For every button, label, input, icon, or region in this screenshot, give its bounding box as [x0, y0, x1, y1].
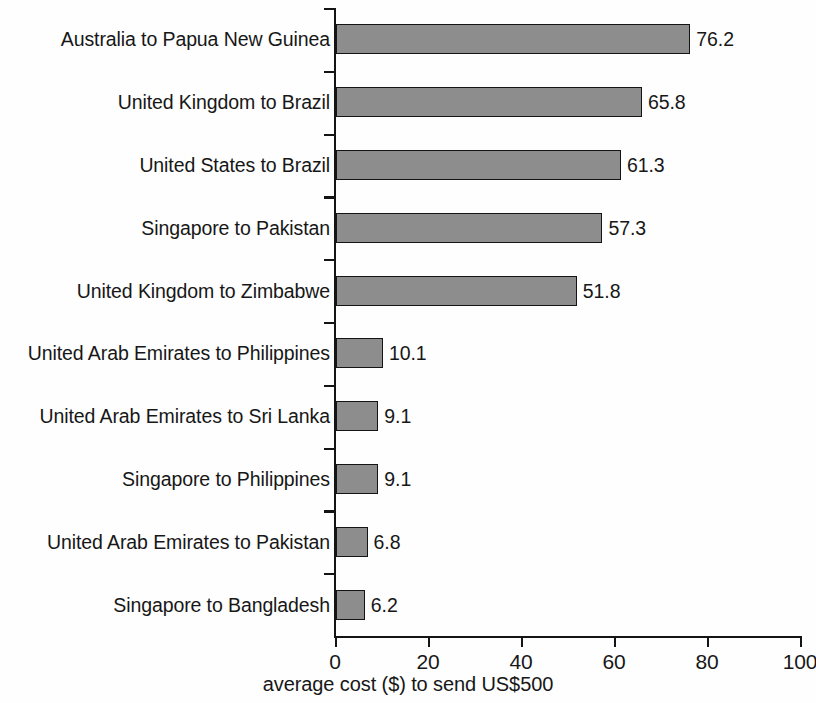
x-axis-tick-label: 80 — [696, 650, 719, 674]
y-axis-tick — [324, 385, 335, 387]
x-axis-tick — [800, 636, 802, 647]
y-axis-tick — [324, 71, 335, 73]
bar-value-label: 61.3 — [627, 154, 665, 177]
y-axis-tick — [324, 448, 335, 450]
category-label: United Kingdom to Brazil — [118, 91, 330, 114]
bar — [336, 213, 602, 243]
category-label: Singapore to Philippines — [122, 468, 330, 491]
bar — [336, 464, 378, 494]
y-axis-tick — [324, 196, 335, 198]
x-axis-tick — [521, 636, 523, 647]
category-label: United Arab Emirates to Pakistan — [47, 530, 330, 553]
category-label: United Arab Emirates to Philippines — [28, 342, 330, 365]
bar — [336, 24, 690, 54]
x-axis-title: average cost ($) to send US$500 — [0, 673, 816, 696]
x-axis-tick-label: 100 — [783, 650, 816, 674]
bar-value-label: 6.2 — [371, 593, 398, 616]
bar-value-label: 9.1 — [384, 405, 411, 428]
bar-chart: 020406080100 Australia to Papua New Guin… — [0, 0, 816, 703]
category-label: United Kingdom to Zimbabwe — [77, 279, 330, 302]
y-axis-tick — [324, 259, 335, 261]
x-axis-tick-label: 40 — [510, 650, 533, 674]
bar — [336, 338, 383, 368]
category-label: Singapore to Bangladesh — [113, 593, 330, 616]
bar — [336, 87, 642, 117]
bar — [336, 527, 368, 557]
bar-value-label: 51.8 — [583, 279, 621, 302]
category-label: United States to Brazil — [139, 154, 330, 177]
bar — [336, 401, 378, 431]
x-axis-tick-label: 0 — [329, 650, 340, 674]
bar-value-label: 10.1 — [389, 342, 427, 365]
bar — [336, 276, 577, 306]
bar-value-label: 6.8 — [374, 530, 401, 553]
x-axis-tick-label: 60 — [603, 650, 626, 674]
y-axis-tick — [324, 322, 335, 324]
x-axis-tick — [335, 636, 337, 647]
x-axis-line — [335, 636, 800, 638]
x-axis-tick — [707, 636, 709, 647]
x-axis-tick — [614, 636, 616, 647]
x-axis-tick — [428, 636, 430, 647]
y-axis-tick — [324, 134, 335, 136]
y-axis-tick — [324, 573, 335, 575]
y-axis-tick — [324, 510, 335, 512]
category-label: Australia to Papua New Guinea — [61, 28, 330, 51]
bar-value-label: 9.1 — [384, 468, 411, 491]
y-axis-tick — [324, 8, 335, 10]
x-axis-tick-label: 20 — [417, 650, 440, 674]
bar-value-label: 76.2 — [696, 28, 734, 51]
bar — [336, 590, 365, 620]
bar-value-label: 65.8 — [648, 91, 686, 114]
bar-value-label: 57.3 — [608, 216, 646, 239]
category-label: Singapore to Pakistan — [141, 216, 330, 239]
category-label: United Arab Emirates to Sri Lanka — [40, 405, 330, 428]
bar — [336, 150, 621, 180]
